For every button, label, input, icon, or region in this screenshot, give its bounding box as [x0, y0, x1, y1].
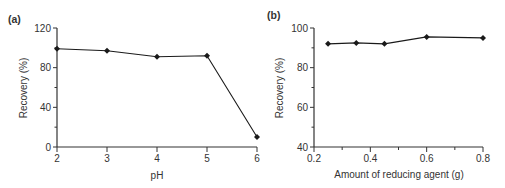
data-series-b	[325, 34, 486, 47]
x-axis-label-a: pH	[151, 170, 164, 181]
y-tick-label: 80	[297, 62, 309, 73]
x-tick-label: 0.8	[476, 153, 490, 164]
series-line	[57, 49, 257, 137]
y-axis-label-b: Recovery (%)	[274, 58, 285, 119]
data-point-marker	[381, 41, 387, 47]
y-tick-label: 0	[45, 142, 51, 153]
x-tick-label: 4	[154, 153, 160, 164]
y-tick-label: 40	[40, 102, 52, 113]
chart-panel-a: (a) 0408012023456 pH Recovery (%)	[8, 13, 260, 181]
data-point-marker	[54, 46, 60, 52]
axes-b: 4060801000.20.40.60.8	[291, 23, 490, 165]
data-point-marker	[353, 40, 359, 46]
axes-a: 0408012023456	[34, 23, 260, 165]
x-tick-label: 5	[204, 153, 210, 164]
data-series-a	[54, 46, 260, 140]
y-tick-label: 120	[34, 23, 51, 34]
data-point-marker	[204, 53, 210, 59]
data-point-marker	[480, 35, 486, 41]
data-point-marker	[254, 134, 260, 140]
y-tick-label: 80	[40, 62, 52, 73]
y-tick-label: 40	[297, 142, 309, 153]
panel-label-b: (b)	[267, 9, 280, 21]
x-tick-label: 0.4	[363, 153, 377, 164]
data-point-marker	[424, 34, 430, 40]
x-tick-label: 2	[54, 153, 60, 164]
y-axis-label-a: Recovery (%)	[18, 58, 29, 119]
panel-label-a: (a)	[8, 13, 21, 25]
x-tick-label: 6	[254, 153, 260, 164]
y-tick-label: 60	[297, 102, 309, 113]
x-axis-label-b: Amount of reducing agent (g)	[334, 169, 464, 180]
figure: (a) 0408012023456 pH Recovery (%) (b) 40…	[0, 0, 505, 188]
data-point-marker	[325, 41, 331, 47]
x-tick-label: 3	[104, 153, 110, 164]
y-tick-label: 100	[291, 23, 308, 34]
series-line	[328, 37, 483, 44]
data-point-marker	[104, 48, 110, 54]
x-tick-label: 0.2	[307, 153, 321, 164]
x-tick-label: 0.6	[420, 153, 434, 164]
chart-panel-b: (b) 4060801000.20.40.60.8 Amount of redu…	[267, 9, 490, 180]
data-point-marker	[154, 54, 160, 60]
